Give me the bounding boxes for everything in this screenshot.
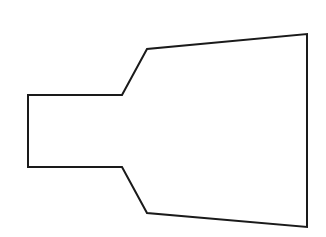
diagram-canvas bbox=[0, 0, 326, 237]
background bbox=[0, 0, 326, 237]
